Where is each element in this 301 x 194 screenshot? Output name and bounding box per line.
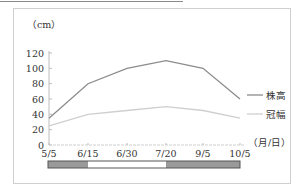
series-lines (49, 61, 240, 126)
y-tick-label: 60 (32, 94, 44, 105)
legend-label: 冠幅 (266, 109, 286, 120)
line-chart: （cm） 020406080100120 5/56/156/307/209/51… (0, 0, 301, 194)
y-axis: 020406080100120 (26, 48, 52, 151)
period-segment (88, 161, 166, 168)
y-tick-label: 120 (26, 48, 44, 59)
period-segment (48, 161, 88, 168)
y-tick-label: 40 (32, 109, 44, 120)
x-tick-label: 7/20 (155, 148, 176, 159)
x-axis-unit-label: （月/日） (248, 137, 291, 148)
x-tick-label: 9/5 (195, 148, 210, 159)
series-line (49, 107, 240, 126)
period-bar (48, 161, 240, 168)
series-line (49, 61, 240, 118)
y-axis-unit-label: （cm） (27, 19, 61, 30)
period-segment (166, 161, 240, 168)
legend: 株高冠幅 (247, 90, 286, 120)
x-tick-label: 10/5 (229, 148, 250, 159)
y-tick-label: 80 (32, 78, 44, 89)
x-tick-label: 6/30 (116, 148, 137, 159)
x-axis: 5/56/156/307/209/510/5 (41, 143, 250, 159)
y-tick-label: 100 (26, 63, 44, 74)
x-tick-label: 6/15 (77, 148, 98, 159)
x-tick-label: 5/5 (41, 148, 56, 159)
y-tick-label: 20 (32, 124, 44, 135)
legend-label: 株高 (266, 90, 286, 101)
